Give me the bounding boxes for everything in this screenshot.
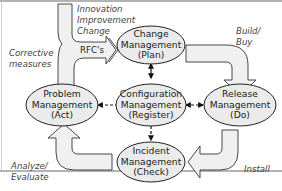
change-management-node: Change Management (Plan) bbox=[117, 26, 185, 64]
analyze-label: Analyze/ bbox=[10, 161, 49, 171]
svg-text:(Check): (Check) bbox=[133, 166, 168, 177]
install-label: Install bbox=[244, 164, 270, 174]
svg-text:Management: Management bbox=[121, 39, 182, 50]
svg-text:Incident: Incident bbox=[132, 145, 169, 156]
corrective-label: Corrective bbox=[9, 48, 53, 58]
svg-text:Management: Management bbox=[121, 99, 182, 110]
problem-management-node: Problem Management (Act) bbox=[26, 84, 98, 126]
incident-management-node: Incident Management (Check) bbox=[117, 142, 185, 182]
svg-text:(Plan): (Plan) bbox=[138, 49, 165, 60]
release-management-node: Release Management (Do) bbox=[204, 84, 276, 126]
svg-text:(Register): (Register) bbox=[129, 109, 174, 120]
buy-label: Buy bbox=[236, 37, 253, 47]
change-label: Change bbox=[77, 26, 110, 36]
innovation-label: Innovation bbox=[77, 4, 123, 14]
svg-text:(Do): (Do) bbox=[230, 109, 250, 120]
svg-text:Problem: Problem bbox=[43, 88, 81, 99]
diagram-canvas: RFC's Change Management (Plan) Configura… bbox=[0, 0, 282, 191]
build-label: Build/ bbox=[236, 26, 262, 36]
evaluate-label: Evaluate bbox=[11, 172, 49, 182]
svg-text:Change: Change bbox=[133, 28, 169, 39]
measures-label: measures bbox=[9, 59, 52, 69]
svg-text:Management: Management bbox=[32, 99, 93, 110]
configuration-management-node: Configuration Management (Register) bbox=[116, 84, 186, 126]
svg-text:Management: Management bbox=[121, 156, 182, 167]
improvement-label: Improvement bbox=[77, 15, 136, 25]
svg-text:Configuration: Configuration bbox=[120, 88, 182, 99]
rfc-label: RFC's bbox=[80, 45, 104, 55]
svg-text:(Act): (Act) bbox=[51, 109, 73, 120]
analyze-evaluate-flow-arrow bbox=[48, 124, 112, 170]
svg-text:Management: Management bbox=[210, 99, 271, 110]
svg-text:Release: Release bbox=[222, 88, 258, 99]
